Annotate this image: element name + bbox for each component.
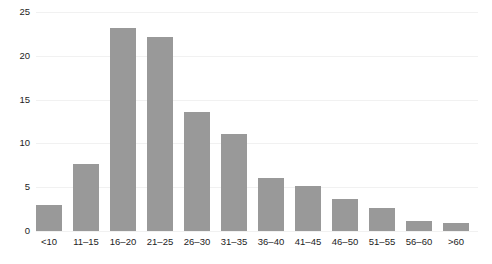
x-tick-label: >60 [438,236,475,247]
bar [406,221,432,231]
bar [369,208,395,231]
x-tick-label: 26–30 [179,236,216,247]
x-tick-label: 46–50 [327,236,364,247]
x-tick-label: 41–45 [290,236,327,247]
bar-chart: 0510152025 <1011–1516–2021–2526–3031–353… [0,0,492,264]
y-tick-label: 10 [6,138,30,148]
bar [110,28,136,231]
bar [295,186,321,231]
bar-series [36,12,478,231]
y-tick-label: 0 [6,226,30,236]
bar [184,112,210,231]
x-tick-label: 56–60 [401,236,438,247]
bar [258,178,284,231]
x-tick-label: 51–55 [364,236,401,247]
y-tick-label: 20 [6,51,30,61]
gridline-0 [36,231,478,232]
x-tick-label: 21–25 [142,236,179,247]
x-axis: <1011–1516–2021–2526–3031–3536–4041–4546… [36,236,478,256]
y-tick-label: 5 [6,182,30,192]
bar [332,199,358,231]
bar [443,223,469,231]
x-tick-label: <10 [31,236,68,247]
bar [36,205,62,231]
bar [147,37,173,231]
y-axis: 0510152025 [0,0,30,264]
bar [221,134,247,231]
x-tick-label: 31–35 [216,236,253,247]
bar [73,164,99,231]
x-tick-label: 11–15 [68,236,105,247]
x-tick-label: 16–20 [105,236,142,247]
x-tick-label: 36–40 [253,236,290,247]
y-tick-label: 25 [6,7,30,17]
y-tick-label: 15 [6,95,30,105]
